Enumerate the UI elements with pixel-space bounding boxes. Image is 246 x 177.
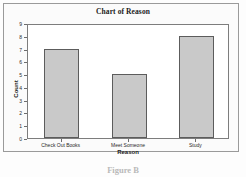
y-axis-tick bbox=[24, 50, 27, 51]
bars-layer bbox=[28, 25, 228, 138]
x-axis-tick-label: Check Out Books bbox=[41, 142, 80, 148]
y-axis-tick-label: 6 bbox=[19, 59, 22, 65]
y-axis-tick bbox=[24, 126, 27, 127]
figure-page: Chart of Reason 0123456789 Count Check O… bbox=[0, 0, 246, 177]
y-axis-tick bbox=[24, 24, 27, 25]
bar bbox=[179, 36, 214, 138]
chart-title: Chart of Reason bbox=[0, 7, 246, 16]
y-axis-tick-label: 5 bbox=[19, 72, 22, 78]
y-axis-tick bbox=[24, 88, 27, 89]
y-axis-tick bbox=[24, 75, 27, 76]
y-axis-tick bbox=[24, 62, 27, 63]
x-axis-title: Reason bbox=[27, 149, 229, 155]
y-axis-tick bbox=[24, 37, 27, 38]
x-axis-tick-label: Study bbox=[189, 142, 202, 148]
x-axis-tick-label: Meet Someone bbox=[111, 142, 145, 148]
y-axis-tick-label: 2 bbox=[19, 110, 22, 116]
bar bbox=[112, 74, 147, 138]
plot-area bbox=[27, 24, 229, 139]
y-axis-tick-label: 9 bbox=[19, 21, 22, 27]
y-axis-tick bbox=[24, 139, 27, 140]
y-axis-tick bbox=[24, 113, 27, 114]
y-axis-title: Count bbox=[13, 80, 19, 97]
y-axis-tick-label: 4 bbox=[19, 85, 22, 91]
figure-caption: Figure B bbox=[0, 163, 246, 177]
y-axis-tick-label: 8 bbox=[19, 34, 22, 40]
bar bbox=[44, 49, 79, 138]
y-axis-tick-label: 0 bbox=[19, 136, 22, 142]
y-axis-tick-label: 7 bbox=[19, 47, 22, 53]
y-axis-tick-label: 3 bbox=[19, 98, 22, 104]
y-axis-tick bbox=[24, 101, 27, 102]
y-axis-tick-label: 1 bbox=[19, 123, 22, 129]
